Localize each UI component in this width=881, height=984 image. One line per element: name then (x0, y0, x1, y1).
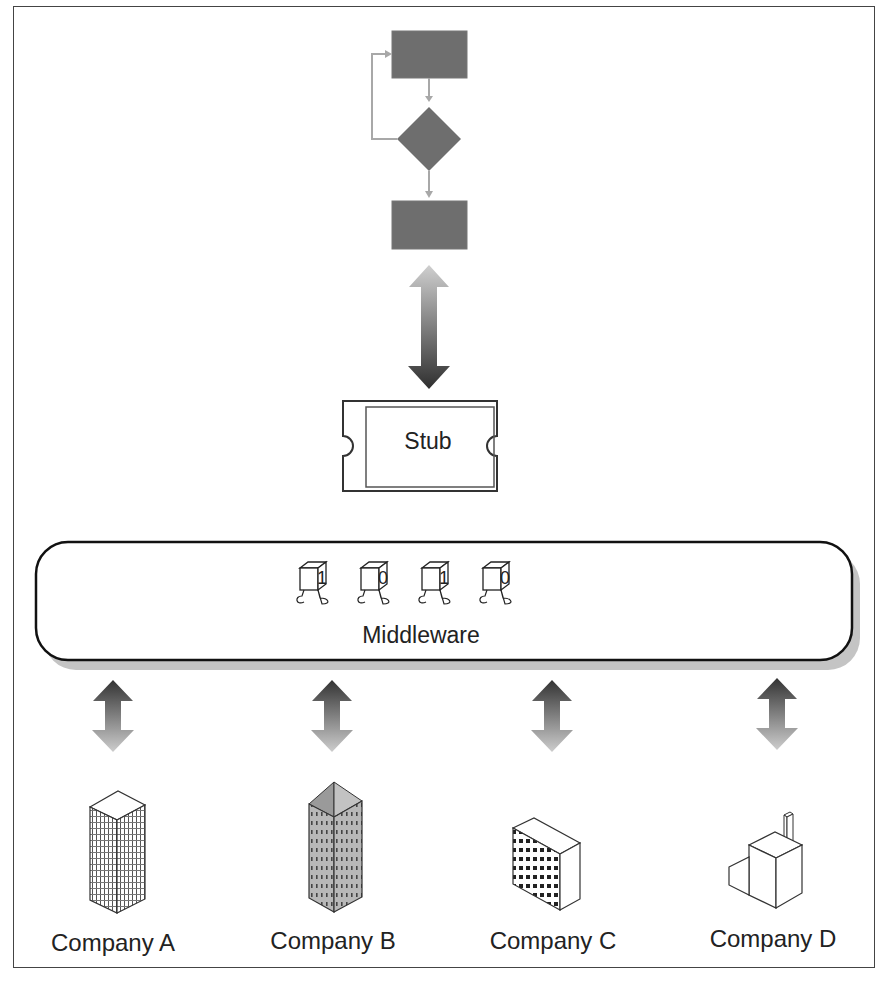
company-d-label: Company D (710, 925, 837, 953)
double-arrow-a (92, 680, 134, 752)
svg-text:0: 0 (378, 568, 388, 588)
svg-text:0: 0 (500, 568, 510, 588)
double-arrow-b (311, 680, 353, 752)
company-arrows (92, 678, 798, 752)
stub-label: Stub (404, 428, 451, 455)
process-box-top (392, 31, 467, 78)
process-box-bottom (392, 201, 467, 249)
pyramid-roof-tower-icon (309, 782, 362, 912)
middleware-label: Middleware (362, 622, 480, 649)
decision-diamond (397, 107, 461, 171)
company-b-label: Company B (270, 927, 395, 955)
factory-icon (729, 812, 802, 908)
flowchart (372, 31, 467, 249)
svg-text:1: 1 (439, 568, 449, 588)
double-arrow-d (756, 678, 798, 750)
svg-text:1: 1 (317, 568, 327, 588)
double-arrow-c (531, 680, 573, 752)
company-c-label: Company C (490, 927, 617, 955)
double-arrow-flow-stub (408, 265, 450, 389)
diagram-canvas: 1 0 1 0 (0, 0, 881, 984)
office-block-icon (513, 818, 580, 910)
office-tower-icon (90, 791, 145, 913)
company-a-label: Company A (51, 929, 175, 957)
